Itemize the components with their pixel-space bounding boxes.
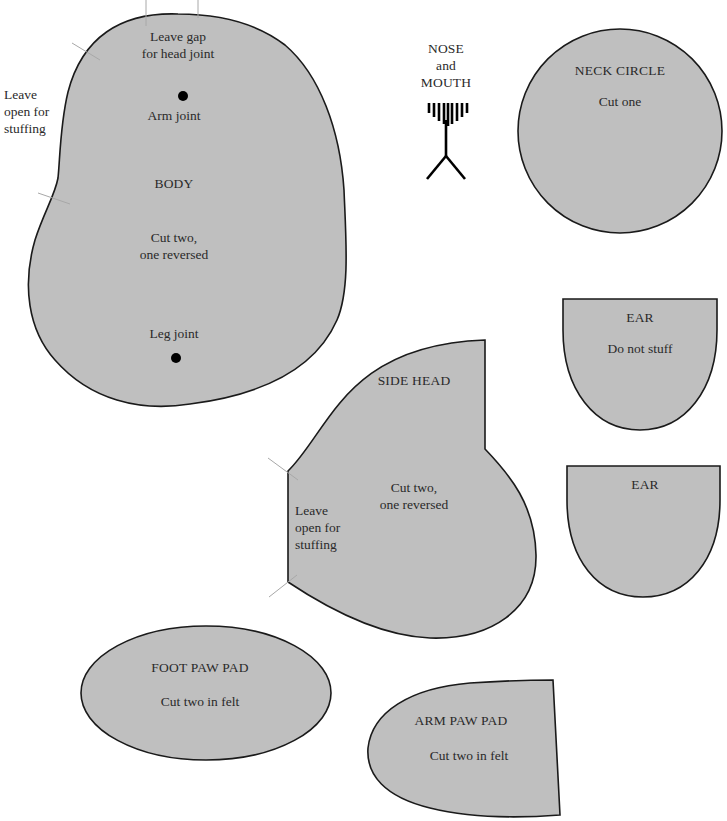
arm-paw-pad-title: ARM PAW PAD (415, 712, 508, 729)
nose-mouth-icon (427, 103, 467, 179)
foot-paw-pad-title: FOOT PAW PAD (151, 659, 248, 676)
side-head-title: SIDE HEAD (378, 372, 451, 389)
body-outline (28, 14, 346, 406)
body-head-gap-note: Leave gap for head joint (142, 28, 215, 62)
body-instruction: Cut two, one reversed (140, 229, 209, 263)
arm-joint-dot (178, 91, 188, 101)
body-title: BODY (154, 175, 193, 192)
leg-joint-dot (171, 353, 181, 363)
pattern-canvas (0, 0, 727, 821)
body-leg-joint-label: Leg joint (149, 325, 198, 342)
nose-mouth-title: NOSE and MOUTH (421, 40, 472, 91)
side-head-stuffing-note: Leave open for stuffing (295, 502, 340, 553)
arm-paw-pad-instruction: Cut two in felt (430, 747, 508, 764)
ear-1-instruction: Do not stuff (607, 340, 672, 357)
ear-1-title: EAR (626, 309, 654, 326)
neck-circle-outline (518, 29, 722, 233)
body-arm-joint-label: Arm joint (148, 107, 201, 124)
ear-2-title: EAR (631, 476, 659, 493)
neck-circle-title: NECK CIRCLE (575, 62, 665, 79)
side-head-instruction: Cut two, one reversed (380, 479, 449, 513)
foot-paw-pad-instruction: Cut two in felt (161, 693, 239, 710)
neck-circle-instruction: Cut one (599, 93, 641, 110)
body-stuffing-note: Leave open for stuffing (4, 86, 49, 137)
